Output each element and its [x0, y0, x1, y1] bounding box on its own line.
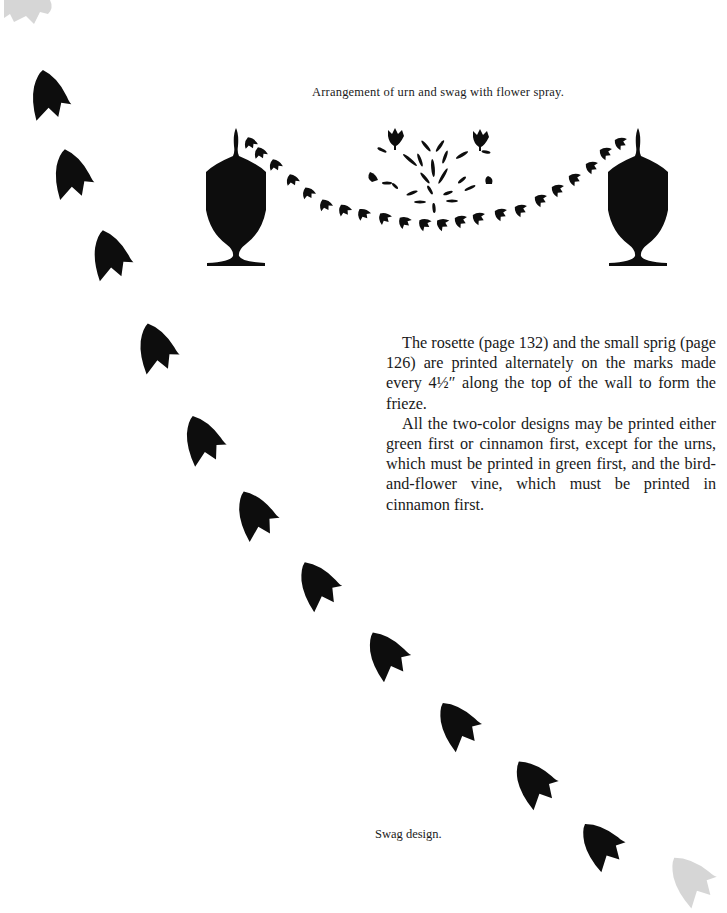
swag-design: [0, 0, 727, 913]
swag-leaf-icon: [575, 811, 633, 873]
swag-leaf-icon: [232, 483, 284, 542]
swag-leaf-icon: [136, 319, 182, 375]
swag-leaf-icon: [31, 68, 72, 121]
swag-leaf-icon: [91, 227, 136, 282]
swag-leaf-icon: [181, 410, 230, 468]
swag-leaf-icon: [362, 622, 417, 683]
bottom-caption: Swag design.: [375, 827, 442, 842]
ghost-leaf-icon: [663, 844, 724, 909]
swag-leaf-icon: [432, 692, 488, 754]
swag-leaf-icon: [294, 552, 348, 613]
swag-leaf-icon: [508, 749, 565, 811]
swag-leaf-icon: [53, 146, 96, 200]
